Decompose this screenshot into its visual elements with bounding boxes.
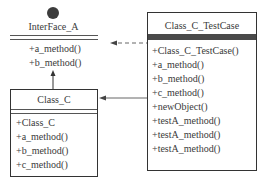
testcase-box[interactable]: Class_C_TestCase +Class_C_TestCase() +a_… [147, 12, 257, 171]
class-c-divider-1 [11, 109, 97, 110]
interface-method: +b_method() [29, 57, 81, 69]
testcase-method: +newObject() [152, 101, 208, 113]
association-arrow [98, 93, 148, 103]
realization-arrow [48, 70, 58, 90]
class-c-member: +Class_C [16, 117, 55, 129]
testcase-method: +Class_C_TestCase() [152, 45, 239, 57]
class-c-member: +c_method() [16, 159, 68, 171]
testcase-method: +a_method() [152, 59, 204, 71]
interface-name[interactable]: InterFace_A [10, 21, 97, 33]
testcase-method: +testA_method() [152, 115, 220, 127]
interface-divider-2 [10, 39, 98, 40]
class-c-box[interactable]: Class_C +Class_C +a_method() +b_method()… [10, 89, 98, 177]
class-c-name: Class_C [11, 94, 97, 106]
testcase-method: +c_method() [152, 87, 204, 99]
interface-method: +a_method() [29, 43, 81, 55]
dependency-dashed-arrow [108, 38, 148, 48]
testcase-attribute-bar [148, 34, 256, 40]
class-c-member: +b_method() [16, 145, 68, 157]
testcase-name: Class_C_TestCase [148, 20, 256, 32]
testcase-method: +testA_method() [152, 129, 220, 141]
interface-divider-1 [10, 35, 98, 36]
class-c-divider-2 [11, 113, 97, 114]
class-c-member: +a_method() [16, 131, 68, 143]
interface-lollipop-icon [47, 7, 59, 19]
testcase-method: +b_method() [152, 73, 204, 85]
testcase-method: +testA_method() [152, 143, 220, 155]
